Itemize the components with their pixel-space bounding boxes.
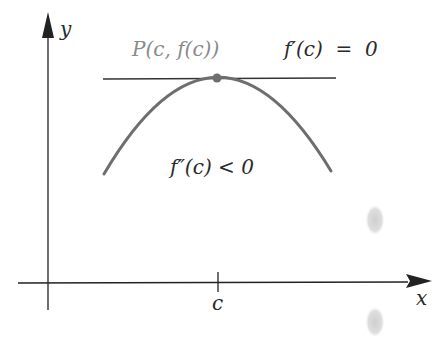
tangent-condition-label: f′(c) = 0 (282, 37, 378, 61)
concavity-condition-label: f″(c) < 0 (168, 155, 254, 179)
smudge-mark (365, 204, 385, 236)
point-label: P(c, f(c)) (131, 37, 219, 61)
x-axis-label: x (416, 286, 427, 310)
x-axis (18, 272, 432, 292)
tick-label-c: c (212, 291, 223, 315)
diagram-canvas: y x c P(c, f(c)) f′(c) = 0 f″(c) < 0 (0, 0, 436, 347)
y-axis-arrow-icon (42, 12, 54, 38)
y-axis-label: y (59, 17, 72, 41)
smudge-mark (365, 306, 385, 338)
y-axis (42, 12, 54, 310)
point-p (213, 74, 222, 83)
